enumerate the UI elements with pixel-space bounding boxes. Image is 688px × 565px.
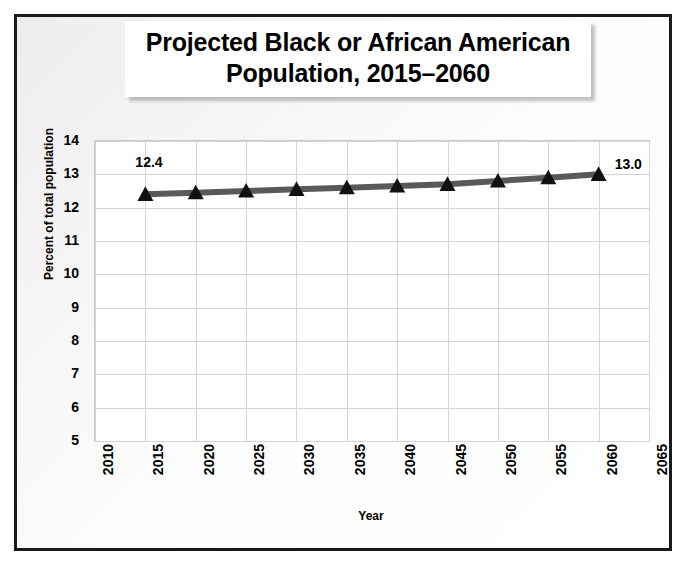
y-tick-label: 11 — [45, 232, 79, 248]
x-axis-title: Year — [94, 509, 648, 523]
x-tick-label: 2030 — [301, 444, 317, 475]
data-label-first: 12.4 — [135, 154, 162, 170]
x-tick-label: 2055 — [553, 444, 569, 475]
y-tick-label: 8 — [45, 332, 79, 348]
y-tick-label: 12 — [45, 199, 79, 215]
x-tick-label: 2050 — [503, 444, 519, 475]
chart-title-line-1: Projected Black or African American — [129, 27, 587, 58]
y-tick-label: 14 — [45, 132, 79, 148]
series-line — [145, 174, 598, 194]
chart-title-line-2: Population, 2015–2060 — [129, 58, 587, 89]
x-tick-label: 2015 — [150, 444, 166, 475]
x-tick-label: 2020 — [201, 444, 217, 475]
chart-frame: Projected Black or African American Popu… — [14, 14, 672, 551]
y-tick-label: 10 — [45, 265, 79, 281]
y-tick-label: 13 — [45, 165, 79, 181]
x-tick-label: 2025 — [251, 444, 267, 475]
x-tick-label: 2040 — [402, 444, 418, 475]
x-tick-label: 2010 — [100, 444, 116, 475]
y-axis-tick-labels: 567891011121314 — [45, 140, 79, 440]
series-line-black-population — [95, 141, 649, 441]
gridline-vertical — [649, 141, 650, 441]
x-tick-label: 2060 — [604, 444, 620, 475]
x-tick-label: 2045 — [453, 444, 469, 475]
y-tick-label: 5 — [45, 432, 79, 448]
x-axis-tick-labels: 2010201520202025203020352040204520502055… — [94, 440, 648, 510]
y-tick-label: 6 — [45, 399, 79, 415]
data-label-last: 13.0 — [615, 156, 642, 172]
plot-area: 12.413.0 — [94, 140, 650, 442]
x-tick-label: 2065 — [654, 444, 670, 475]
y-tick-label: 9 — [45, 299, 79, 315]
x-tick-label: 2035 — [352, 444, 368, 475]
chart-title-box: Projected Black or African American Popu… — [125, 21, 591, 97]
y-tick-label: 7 — [45, 365, 79, 381]
